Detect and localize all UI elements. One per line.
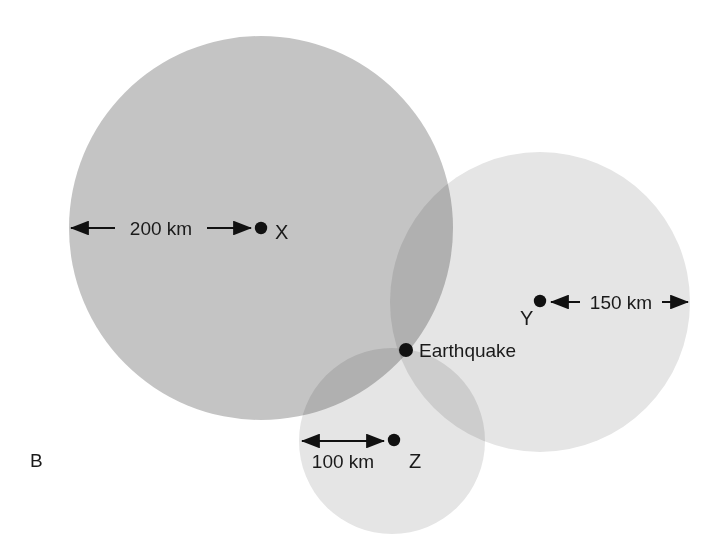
station-z-dot [388,434,400,446]
epicenter-dot [399,343,413,357]
station-y-dimension-label: 150 km [590,292,652,313]
station-x-dot [255,222,267,234]
panel-label-b: B [30,450,43,471]
station-y-dot [534,295,546,307]
diagram-canvas: 200 km X 150 km Y 100 km Z Earthquake B [0,0,713,550]
station-x-dimension-label: 200 km [130,218,192,239]
station-y-label: Y [520,307,533,329]
station-z-dimension-label: 100 km [312,451,374,472]
station-z-label: Z [409,450,421,472]
earthquake-triangulation-figure: 200 km X 150 km Y 100 km Z Earthquake B [0,0,713,550]
station-x-label: X [275,221,288,243]
epicenter-label: Earthquake [419,340,516,361]
